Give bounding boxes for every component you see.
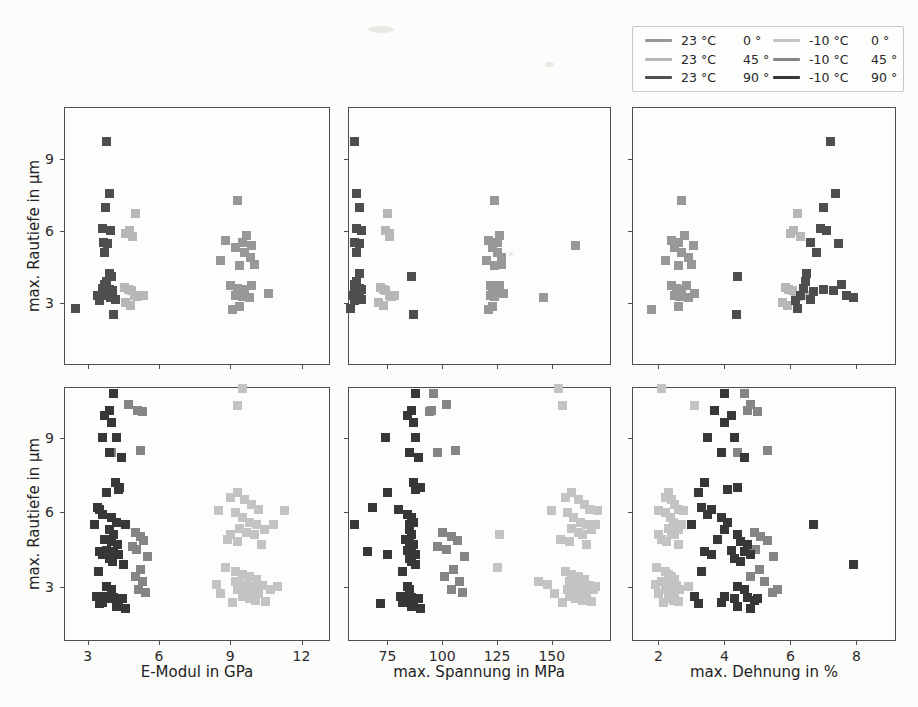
x-tick-label: 3 [66, 649, 110, 663]
data-point [383, 550, 392, 559]
data-point [228, 598, 237, 607]
data-point [717, 448, 726, 457]
y-tick [60, 303, 64, 304]
x-tick [230, 641, 231, 645]
legend-line-swatch [773, 58, 800, 61]
data-point [730, 433, 739, 442]
data-point [539, 293, 548, 302]
data-point [414, 594, 423, 603]
data-point [565, 537, 574, 546]
legend-angle-label: 0 ° [871, 33, 901, 48]
data-point [763, 446, 772, 455]
legend-item-sm10_45: -10 °C45 ° [773, 51, 901, 68]
data-point [837, 280, 846, 289]
x-tick [442, 365, 443, 369]
data-point [269, 520, 278, 529]
y-tick [628, 512, 632, 513]
y-tick [344, 159, 348, 160]
data-point [350, 137, 359, 146]
data-point [849, 293, 858, 302]
y-tick [628, 587, 632, 588]
data-point [438, 528, 447, 537]
legend-line-swatch [645, 76, 672, 79]
data-point [414, 453, 423, 462]
data-point [411, 560, 420, 569]
data-point [107, 272, 116, 281]
data-point [390, 291, 399, 300]
data-point [768, 588, 777, 597]
data-point [659, 598, 668, 607]
data-point [571, 241, 580, 250]
data-point [793, 304, 802, 313]
data-point [687, 520, 696, 529]
x-tick-label: 8 [834, 649, 878, 663]
data-point [713, 535, 722, 544]
data-point [460, 552, 469, 561]
data-point [447, 585, 456, 594]
data-point [723, 485, 732, 494]
data-point [740, 389, 749, 398]
x-tick [302, 365, 303, 369]
data-point [101, 203, 110, 212]
data-point [425, 407, 434, 416]
data-point [558, 401, 567, 410]
data-point [710, 406, 719, 415]
data-point [94, 567, 103, 576]
data-point [743, 406, 752, 415]
x-tick-label: 125 [475, 649, 519, 663]
data-point [117, 453, 126, 462]
data-point [809, 520, 818, 529]
x-tick [552, 641, 553, 645]
legend-temp-label: -10 °C [809, 70, 861, 85]
data-point [228, 305, 237, 314]
data-point [442, 545, 451, 554]
data-point [829, 286, 838, 295]
x-tick-label: 6 [768, 649, 812, 663]
scan-speck [509, 252, 513, 256]
x-tick [724, 641, 725, 645]
data-point [769, 552, 778, 561]
data-point [732, 310, 741, 319]
data-point [111, 295, 120, 304]
data-point [556, 535, 565, 544]
data-point [433, 448, 442, 457]
y-tick-label: 6 [24, 224, 54, 238]
data-point [690, 592, 699, 601]
data-point [819, 203, 828, 212]
data-point [385, 232, 394, 241]
data-point [697, 567, 706, 576]
legend-line-swatch [645, 58, 672, 61]
legend-item-s23_90: 23 °C90 ° [645, 69, 773, 86]
legend-temp-label: 23 °C [681, 70, 733, 85]
data-point [834, 239, 843, 248]
x-axis-label-dehnung: max. Dehnung in % [690, 663, 838, 681]
data-point [109, 310, 118, 319]
x-tick [88, 365, 89, 369]
data-point [690, 401, 699, 410]
legend-angle-label: 0 ° [743, 33, 773, 48]
x-axis-label-emodul: E-Modul in GPa [141, 663, 254, 681]
data-point [411, 433, 420, 442]
data-point [736, 557, 745, 566]
data-point [684, 582, 693, 591]
data-point [703, 433, 712, 442]
data-point [214, 506, 223, 515]
data-point [102, 488, 111, 497]
data-point [126, 301, 135, 310]
data-point [680, 231, 689, 240]
data-point [733, 483, 742, 492]
data-point [221, 236, 230, 245]
data-point [112, 433, 121, 442]
data-point [482, 256, 491, 265]
data-point [124, 400, 133, 409]
data-point [261, 597, 270, 606]
data-point [442, 400, 451, 409]
data-point [383, 488, 392, 497]
legend-column: -10 °C0 °-10 °C45 °-10 °C90 ° [773, 32, 901, 86]
x-tick [387, 365, 388, 369]
data-point [139, 536, 148, 545]
data-point [543, 580, 552, 589]
data-point [138, 407, 147, 416]
data-point [458, 588, 467, 597]
legend-temp-label: -10 °C [809, 52, 861, 67]
